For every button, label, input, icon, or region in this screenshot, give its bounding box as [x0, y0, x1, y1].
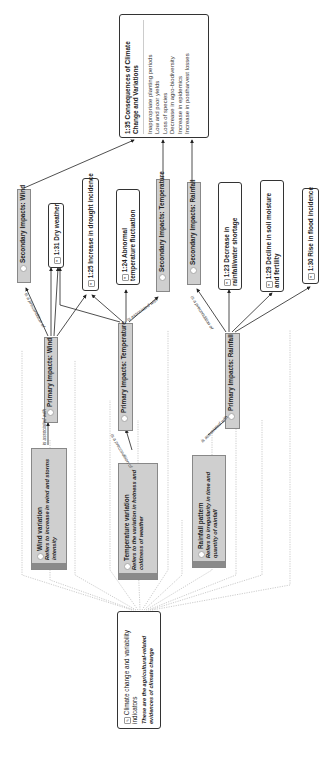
root-title: Climate change and variability indicator… [123, 630, 138, 724]
quotation-icon: ❝ [308, 273, 315, 280]
temperature-variation-description: Refers to the variation in hotness and c… [131, 469, 145, 570]
primary-impacts-temperature-label: Primary Impacts: Temperature [120, 321, 127, 413]
effect-rainfall-shortage-node[interactable]: ❝ 1:23 Decrease in rainfall/water shorta… [218, 182, 242, 290]
secondary-impacts-temperature-label: Secondary Impacts: Temperature [158, 171, 165, 272]
primary-impacts-rainfall-label: Primary Impacts: Rainfall [227, 334, 234, 411]
consequence-item: Increase in epidemics [177, 20, 184, 134]
secondary-impacts-rainfall-node[interactable]: Secondary Impacts: Rainfall [187, 182, 201, 285]
node-status-icon [121, 415, 128, 422]
wind-variation-title: Wind variation [36, 507, 43, 551]
consequence-item: Inappropriate planting periods [147, 20, 154, 134]
primary-impacts-wind-label: Primary Impacts: Wind [46, 338, 53, 407]
root-description: These are the agricultural-related evide… [141, 618, 155, 724]
wind-variation-description: Refers to increase in wind and storms in… [44, 454, 58, 560]
root-indicators-node[interactable]: ✎ Climate change and variability indicat… [117, 611, 161, 729]
quotation-icon: ❝ [122, 274, 129, 281]
consequence-item: Increase in postharvest losses [184, 20, 191, 134]
effect-label: 1:29 Decline in soil moisture and fertil… [265, 193, 280, 288]
relation-label-associated-wind: is associated with [42, 409, 47, 445]
consequence-item: Low and poor yields [154, 20, 161, 134]
effect-label: 1:30 Rise in flood incidence [307, 187, 314, 271]
node-status-icon [124, 563, 131, 570]
secondary-impacts-temperature-node[interactable]: Secondary Impacts: Temperature [156, 179, 170, 292]
effect-label: 1:31 Dry weather [53, 204, 60, 255]
quotation-icon: ❝ [224, 279, 231, 286]
consequences-title: 1:35 Consequences of Climate Change and … [124, 20, 144, 134]
node-status-icon [47, 409, 54, 416]
node-status-icon [198, 551, 205, 558]
secondary-impacts-wind-label: Secondary Impacts: Wind [19, 185, 26, 263]
secondary-impacts-rainfall-label: Secondary Impacts: Rainfall [189, 179, 196, 265]
secondary-impacts-wind-node[interactable]: Secondary Impacts: Wind [17, 189, 31, 283]
node-status-icon [159, 274, 166, 281]
temperature-variation-title: Temperature variation [123, 494, 130, 561]
quotation-icon: ❝ [266, 281, 273, 288]
quotation-icon: ❝ [88, 280, 95, 287]
primary-impacts-rainfall-node[interactable]: Primary Impacts: Rainfall [225, 333, 240, 429]
node-status-icon [20, 265, 27, 272]
memo-icon: ✎ [124, 717, 131, 724]
temperature-variation-node[interactable]: Temperature variation Refers to the vari… [118, 463, 158, 580]
effect-label: 1:24 Abnormal temperature fluctuation [121, 210, 136, 281]
effect-flood-incidence-node[interactable]: ❝ 1:30 Rise in flood incidence [302, 188, 319, 284]
effect-label: 1:23 Decrease in rainfall/water shortage [223, 218, 238, 286]
primary-impacts-temperature-node[interactable]: Primary Impacts: Temperature [118, 323, 133, 431]
effect-soil-moisture-node[interactable]: ❝ 1:29 Decline in soil moisture and fert… [260, 180, 284, 292]
effect-dry-weather-node[interactable]: ❝ 1:31 Dry weather [48, 203, 64, 268]
rainfall-pattern-node[interactable]: Rainfall pattern Refers to irregularity … [192, 455, 226, 568]
effect-drought-incidence-node[interactable]: ❝ 1:25 Increase in drought incidence [82, 178, 99, 291]
effect-temperature-fluctuation-node[interactable]: ❝ 1:24 Abnormal temperature fluctuation [116, 189, 140, 285]
consequences-node[interactable]: 1:35 Consequences of Climate Change and … [119, 14, 209, 138]
effect-label: 1:25 Increase in drought incidence [87, 173, 94, 278]
node-status-icon [37, 553, 44, 560]
consequence-item: Loss of species [162, 20, 169, 134]
node-status-icon [228, 413, 235, 420]
wind-variation-node[interactable]: Wind variation Refers to increase in win… [31, 448, 67, 570]
rainfall-pattern-title: Rainfall pattern [197, 502, 204, 549]
rainfall-pattern-description: Refers to irregularity in time and quant… [205, 461, 219, 558]
quotation-icon: ❝ [54, 257, 61, 264]
node-status-icon [190, 267, 197, 274]
consequence-item: Decrease in agro-biodiversity [169, 20, 176, 134]
